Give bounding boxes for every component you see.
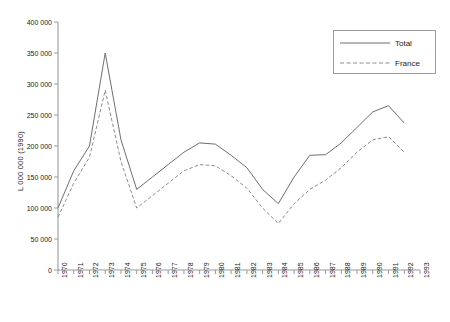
x-tick-label: 1989 <box>360 262 367 278</box>
x-tick-label: 1976 <box>155 262 162 278</box>
legend-swatch-france <box>340 58 390 68</box>
x-tick-label: 1970 <box>61 262 68 278</box>
series-line-total <box>58 53 404 208</box>
legend-swatch-total <box>340 38 390 48</box>
x-tick-label: 1971 <box>77 262 84 278</box>
x-tick-label: 1979 <box>203 262 210 278</box>
x-tick-label: 1981 <box>234 262 241 278</box>
x-tick-label: 1988 <box>344 262 351 278</box>
x-tick-label: 1990 <box>376 262 383 278</box>
x-tick-label: 1977 <box>171 262 178 278</box>
legend-label-total: Total <box>395 39 412 48</box>
legend: Total France <box>333 30 436 74</box>
x-tick-label: 1984 <box>281 262 288 278</box>
x-tick-label: 1983 <box>266 262 273 278</box>
legend-item-total: Total <box>334 34 435 52</box>
data-series <box>58 53 404 224</box>
x-tick-label: 1986 <box>313 262 320 278</box>
x-tick-label: 1992 <box>407 262 414 278</box>
x-tick-label: 1993 <box>423 262 430 278</box>
x-tick-label: 1974 <box>124 262 131 278</box>
series-line-france <box>58 90 404 223</box>
x-tick-label: 1985 <box>297 262 304 278</box>
x-tick-label: 1980 <box>218 262 225 278</box>
x-tick-label: 1972 <box>92 262 99 278</box>
x-tick-label: 1987 <box>329 262 336 278</box>
x-tick-label: 1991 <box>392 262 399 278</box>
x-tick-label: 1978 <box>187 262 194 278</box>
chart-container: L 000 000 (1990) 050 000100 000150 00020… <box>0 0 450 322</box>
x-tick-label: 1975 <box>140 262 147 278</box>
legend-label-france: France <box>395 59 420 68</box>
x-tick-label: 1973 <box>108 262 115 278</box>
legend-item-france: France <box>334 54 435 72</box>
x-tick-label: 1982 <box>250 262 257 278</box>
